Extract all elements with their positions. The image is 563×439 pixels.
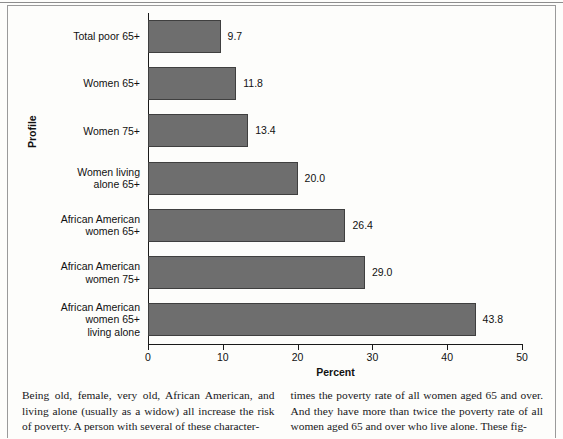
x-axis-tick-label: 50 xyxy=(502,351,542,363)
bar-value-label: 26.4 xyxy=(352,209,372,242)
x-axis-tick-label: 40 xyxy=(427,351,467,363)
x-axis-tick-label: 0 xyxy=(128,351,168,363)
bar-value-label: 43.8 xyxy=(483,303,503,336)
category-label: African American women 75+ xyxy=(20,260,140,285)
bar xyxy=(148,303,476,336)
x-axis-tick xyxy=(372,345,373,350)
x-axis-line xyxy=(148,344,523,345)
x-axis-tick-label: 30 xyxy=(352,351,392,363)
bar xyxy=(148,20,221,53)
x-axis-tick xyxy=(522,345,523,350)
bar-value-label: 13.4 xyxy=(255,114,275,147)
bar xyxy=(148,209,345,242)
category-label: African American women 65+ living alone xyxy=(20,301,140,339)
category-label: Women 65+ xyxy=(20,77,140,90)
category-label: Women 75+ xyxy=(20,125,140,138)
bar xyxy=(148,114,248,147)
body-text-columns: Being old, female, very old, African Ame… xyxy=(0,388,563,439)
x-axis-title: Percent xyxy=(148,366,523,378)
x-axis-tick xyxy=(148,345,149,350)
bar xyxy=(148,162,298,195)
x-axis-tick xyxy=(298,345,299,350)
bar-value-label: 20.0 xyxy=(305,162,325,195)
body-paragraph-left: Being old, female, very old, African Ame… xyxy=(22,388,275,435)
bar-chart: Profile Percent 9.7Total poor 65+11.8Wom… xyxy=(0,0,563,378)
body-column-left: Being old, female, very old, African Ame… xyxy=(22,388,275,439)
bar-value-label: 29.0 xyxy=(372,256,392,289)
bar-value-label: 11.8 xyxy=(243,67,263,100)
x-axis-tick xyxy=(223,345,224,350)
body-column-right: times the poverty rate of all women aged… xyxy=(291,388,544,439)
body-paragraph-right: times the poverty rate of all women aged… xyxy=(291,388,544,435)
category-label: Total poor 65+ xyxy=(20,30,140,43)
x-axis-tick xyxy=(447,345,448,350)
category-label: African American women 65+ xyxy=(20,213,140,238)
bar-value-label: 9.7 xyxy=(228,20,243,53)
bar xyxy=(148,256,365,289)
category-label: Women living alone 65+ xyxy=(20,166,140,191)
x-axis-tick-label: 20 xyxy=(278,351,318,363)
x-axis-tick-label: 10 xyxy=(203,351,243,363)
bar xyxy=(148,67,236,100)
